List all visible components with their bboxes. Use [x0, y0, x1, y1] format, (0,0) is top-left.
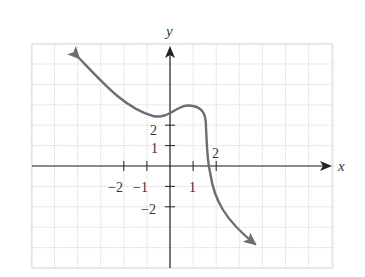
x-axis-label: x: [337, 158, 345, 174]
x-tick-label-1: 1: [189, 180, 196, 195]
y-axis-label: y: [164, 23, 173, 39]
y-tick-label-1: 1: [151, 141, 158, 156]
y-tick-label-2: 2: [150, 123, 157, 138]
function-graph: x y −2 −1 1 2 2 1 −2: [0, 0, 365, 277]
x-tick-label-2: 2: [212, 146, 219, 161]
x-tick-label-neg2: −2: [108, 180, 123, 195]
x-tick-label-neg1: −1: [133, 180, 148, 195]
grid: [31, 44, 333, 268]
function-curve: [79, 58, 255, 244]
y-tick-label-neg2: −2: [141, 202, 156, 217]
